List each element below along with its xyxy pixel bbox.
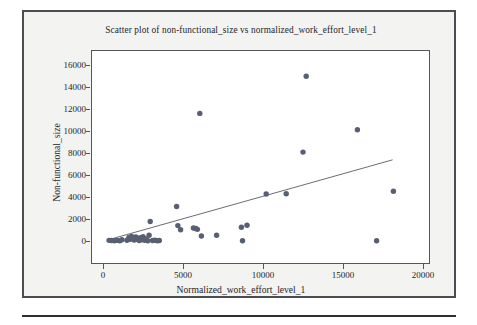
data-point bbox=[146, 233, 151, 238]
x-tick-label: 0 bbox=[101, 270, 106, 280]
trend-line bbox=[111, 160, 393, 239]
y-tick-mark bbox=[86, 241, 90, 242]
y-tick-mark bbox=[86, 197, 90, 198]
data-point bbox=[178, 227, 183, 232]
data-point bbox=[239, 225, 244, 230]
data-point bbox=[283, 191, 288, 196]
data-point bbox=[214, 233, 219, 238]
x-tick-mark bbox=[423, 264, 424, 269]
data-point bbox=[355, 127, 360, 132]
data-point bbox=[119, 237, 124, 242]
y-tick-mark bbox=[86, 131, 90, 132]
data-point bbox=[374, 238, 379, 243]
x-tick-mark bbox=[263, 264, 264, 269]
y-axis-tick-marks bbox=[24, 50, 91, 264]
data-point bbox=[157, 238, 162, 243]
x-tick-mark bbox=[183, 264, 184, 269]
y-tick-mark bbox=[86, 153, 90, 154]
y-tick-mark bbox=[86, 109, 90, 110]
figure-frame: Scatter plot of non-functional_size vs n… bbox=[22, 10, 456, 298]
x-tick-label: 15000 bbox=[332, 270, 355, 280]
data-point bbox=[199, 233, 204, 238]
data-point bbox=[145, 238, 150, 243]
data-point bbox=[197, 111, 202, 116]
bottom-divider bbox=[22, 315, 456, 317]
data-point bbox=[244, 223, 249, 228]
plot-svg bbox=[92, 51, 430, 264]
y-tick-mark bbox=[86, 87, 90, 88]
x-axis-label: Normalized_work_effort_level_1 bbox=[24, 284, 458, 295]
chart-title: Scatter plot of non-functional_size vs n… bbox=[24, 25, 458, 35]
x-tick-label: 20000 bbox=[412, 270, 435, 280]
scatter-chart: Scatter plot of non-functional_size vs n… bbox=[24, 12, 458, 300]
data-point bbox=[195, 227, 200, 232]
y-tick-mark bbox=[86, 219, 90, 220]
data-point bbox=[147, 219, 152, 224]
x-tick-label: 10000 bbox=[252, 270, 275, 280]
x-tick-mark bbox=[343, 264, 344, 269]
data-point bbox=[263, 191, 268, 196]
y-tick-mark bbox=[86, 65, 90, 66]
x-tick-label: 5000 bbox=[174, 270, 192, 280]
x-tick-mark bbox=[103, 264, 104, 269]
data-point bbox=[391, 189, 396, 194]
data-point bbox=[303, 74, 308, 79]
y-tick-mark bbox=[86, 175, 90, 176]
data-point bbox=[300, 149, 305, 154]
data-point bbox=[174, 204, 179, 209]
plot-area bbox=[91, 50, 430, 264]
data-point bbox=[240, 238, 245, 243]
x-axis-tick-labels: 05000100001500020000 bbox=[91, 270, 430, 284]
